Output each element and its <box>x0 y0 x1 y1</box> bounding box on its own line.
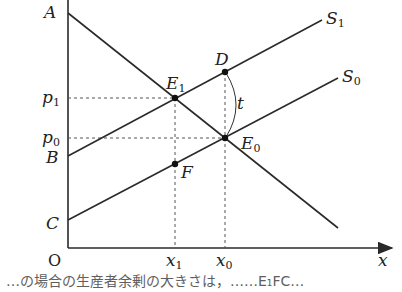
label-tax: t <box>237 93 244 113</box>
point-d <box>222 69 228 75</box>
label-b: B <box>45 147 59 167</box>
label-origin: O <box>48 251 61 270</box>
guide-lines <box>68 72 225 248</box>
label-x1: x1 <box>166 250 183 272</box>
label-e1: E1 <box>165 73 185 95</box>
supply-curve-s1 <box>68 20 322 156</box>
label-p0: p0 <box>42 127 60 149</box>
label-a: A <box>42 2 56 22</box>
supply-demand-diagram: A B C O x p1 p0 x1 x0 S1 S0 E1 D E0 F t <box>0 0 402 292</box>
caption-text: …の場合の生産者余剰の大きさは，……E₁FC… <box>0 270 402 292</box>
label-x-axis: x <box>378 250 388 270</box>
label-s1: S1 <box>326 8 345 30</box>
supply-curve-s0 <box>68 78 338 220</box>
demand-curve <box>68 13 338 228</box>
label-d: D <box>214 49 229 69</box>
label-p1: p1 <box>42 87 60 109</box>
label-s0: S0 <box>342 66 361 88</box>
label-x0: x0 <box>216 250 233 272</box>
tax-arc <box>226 73 236 137</box>
point-e0 <box>222 135 228 141</box>
point-f <box>172 161 178 167</box>
label-f: F <box>180 162 194 182</box>
label-e0: E0 <box>240 133 260 155</box>
label-c: C <box>46 213 59 233</box>
point-e1 <box>172 95 178 101</box>
